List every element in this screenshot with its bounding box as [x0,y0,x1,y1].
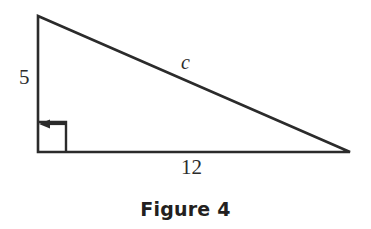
figure-container: 5 12 c Figure 4 [0,0,371,229]
figure-caption: Figure 4 [0,200,371,219]
right-angle-square [38,122,66,152]
right-triangle-diagram [0,0,371,229]
side-label-horizontal-leg: 12 [181,157,202,178]
side-label-vertical-leg: 5 [19,67,30,88]
side-label-hypotenuse: c [181,52,190,72]
triangle-outline [38,16,350,152]
